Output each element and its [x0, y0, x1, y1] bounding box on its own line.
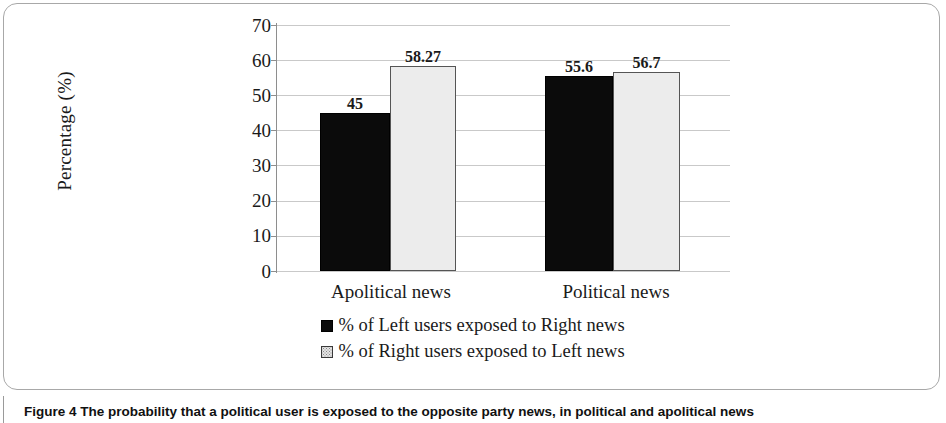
y-tick-label: 70: [225, 16, 271, 35]
y-tick-mark: [271, 95, 277, 96]
x-category-label-political: Political news: [523, 281, 709, 303]
bar-value-label: 55.6: [545, 59, 613, 75]
legend-swatch-dotted-square-icon: [321, 346, 333, 358]
y-tick-mark: [271, 236, 277, 237]
figure-caption: Figure 4 The probability that a politica…: [24, 404, 924, 423]
y-tick-mark: [271, 201, 277, 202]
bar-value-label: 56.7: [613, 55, 680, 71]
y-tick-mark: [271, 271, 277, 272]
y-tick-mark: [271, 25, 277, 26]
y-tick-label: 50: [225, 86, 271, 105]
legend-item-right-users: % of Right users exposed to Left news: [0, 338, 946, 364]
y-tick-mark: [271, 165, 277, 166]
x-category-label-apolitical: Apolitical news: [298, 281, 484, 303]
caption-left-rule: [3, 396, 4, 423]
y-axis-title: Percentage (%): [54, 21, 76, 241]
y-tick-label: 30: [225, 156, 271, 175]
plot-area: 45 58.27 55.6 56.7: [277, 25, 730, 271]
bar-apolitical-left-exposed-right: [320, 113, 390, 271]
y-tick-label: 20: [225, 191, 271, 210]
bar-value-label: 58.27: [390, 49, 456, 65]
legend-swatch-black-square-icon: [321, 320, 333, 332]
legend-item-left-users: % of Left users exposed to Right news: [0, 312, 946, 338]
y-axis-tick-labels: 70 60 50 40 30 20 10 0: [215, 25, 271, 271]
bar-political-right-exposed-left: [613, 72, 680, 271]
gridline-70: [277, 25, 730, 26]
gridline-0: [277, 271, 730, 272]
bar-value-label: 45: [320, 96, 390, 112]
y-tick-label: 60: [225, 51, 271, 70]
chart-legend: % of Left users exposed to Right news % …: [0, 312, 946, 364]
y-tick-label: 40: [225, 121, 271, 140]
bar-political-left-exposed-right: [545, 76, 613, 271]
y-tick-label: 10: [225, 226, 271, 245]
bar-apolitical-right-exposed-left: [390, 66, 456, 271]
legend-label: % of Right users exposed to Left news: [338, 342, 624, 361]
legend-label: % of Left users exposed to Right news: [338, 316, 624, 335]
y-tick-mark: [271, 130, 277, 131]
bar-chart: Percentage (%) 70 60 50 40 30 20 10 0 45…: [0, 0, 946, 390]
y-tick-mark: [271, 60, 277, 61]
y-tick-label: 0: [225, 262, 271, 281]
